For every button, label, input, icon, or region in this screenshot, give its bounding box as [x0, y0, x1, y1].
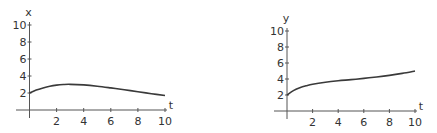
plot-y-vs-t: 246810246810yt	[270, 12, 424, 129]
y-tick-label: 8	[20, 36, 27, 49]
x-tick-label: 4	[80, 115, 87, 128]
x-tick-label: 10	[158, 115, 172, 128]
x-tick-label: 8	[134, 115, 141, 128]
x-axis-title: t	[169, 99, 174, 112]
y-tick-label: 2	[277, 89, 284, 102]
x-tick-label: 2	[53, 115, 60, 128]
x-tick-label: 10	[408, 116, 422, 129]
x-tick-label: 8	[386, 116, 393, 129]
y-tick-label: 6	[20, 53, 27, 66]
x-tick-label: 6	[360, 116, 367, 129]
y-tick-label: 8	[277, 41, 284, 54]
y-tick-label: 6	[277, 57, 284, 70]
plot-x-vs-t: 246810246810xt	[13, 6, 174, 128]
series-curve	[287, 71, 415, 95]
y-tick-label: 10	[270, 25, 284, 38]
series-curve	[30, 84, 166, 95]
x-axis-title: t	[419, 100, 424, 113]
y-tick-label: 2	[20, 87, 27, 100]
y-tick-label: 4	[277, 73, 284, 86]
y-tick-label: 4	[20, 70, 27, 83]
x-tick-label: 4	[335, 116, 342, 129]
y-axis-title: y	[283, 12, 290, 25]
x-tick-label: 6	[107, 115, 114, 128]
y-axis-title: x	[25, 6, 32, 19]
x-tick-label: 2	[309, 116, 316, 129]
y-tick-label: 10	[13, 19, 27, 32]
chart-canvas: 246810246810xt 246810246810yt	[0, 0, 437, 133]
